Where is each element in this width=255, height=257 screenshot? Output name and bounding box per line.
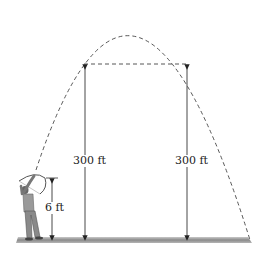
left-height-label: 300 ft [72,155,107,167]
archer-height-label: 6 ft [44,202,65,214]
diagram-graphics [0,0,255,257]
trajectory-diagram: 300 ft 300 ft 6 ft [0,0,255,257]
trajectory-parabola [36,36,250,240]
archer-figure [19,175,46,241]
ground [16,237,252,243]
right-height-label: 300 ft [174,155,209,167]
